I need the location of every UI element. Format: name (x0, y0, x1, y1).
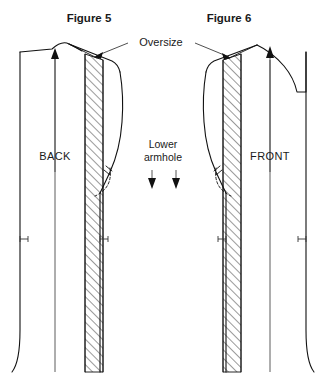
front-piece-label: FRONT (250, 150, 290, 162)
oversize-label: Oversize (139, 36, 182, 48)
figure-6-title: Figure 6 (207, 12, 252, 24)
lower-armhole-label-line2: armhole (144, 151, 182, 163)
lower-armhole-label-line1: Lower (149, 138, 178, 150)
pattern-diagram-svg: Figure 5 Figure 6 BACK (0, 0, 326, 382)
canvas-background (0, 0, 326, 382)
figure-5-title: Figure 5 (67, 12, 112, 24)
pattern-diagram-root: Figure 5 Figure 6 BACK (0, 0, 326, 382)
back-piece-label: BACK (39, 150, 71, 162)
